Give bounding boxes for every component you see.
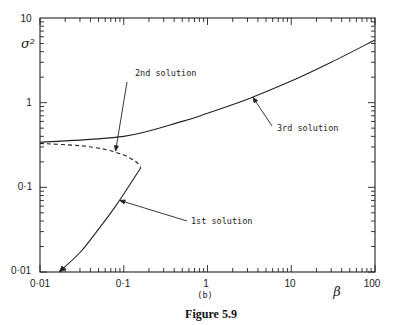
- arrowhead-icon: [114, 146, 118, 151]
- arrowhead-icon: [120, 200, 125, 204]
- axis-ticks: [40, 18, 375, 272]
- plot-frame: [40, 18, 375, 272]
- data-series: [40, 40, 375, 272]
- arrowhead-icon: [253, 98, 257, 103]
- annotation-arrows: [59, 82, 272, 272]
- y-axis-title: σ²: [21, 36, 35, 51]
- y-tick-label-0.01: 0·01: [11, 265, 31, 276]
- x-tick-label-0.01: 0·01: [30, 278, 50, 289]
- annotation-leader: [116, 82, 127, 151]
- x-axis-title: β: [332, 284, 341, 299]
- y-tick-label-1: 1: [26, 97, 32, 108]
- x-tick-label-10: 10: [284, 278, 296, 289]
- figure-caption: Figure 5.9: [185, 307, 237, 321]
- chart: 10 1 0·1 0·01 0·01 0·1 1 10 100 σ² β 2nd…: [0, 0, 393, 325]
- annotation-2nd-solution: 2nd solution: [135, 68, 196, 78]
- series-1st-solution: [59, 168, 141, 272]
- panel-label: (b): [197, 290, 212, 300]
- x-tick-label-1: 1: [203, 278, 209, 289]
- annotation-3rd-solution: 3rd solution: [277, 123, 338, 133]
- series-2nd-solution: [40, 143, 141, 167]
- x-tick-label-0.1: 0·1: [116, 278, 131, 289]
- annotation-1st-solution: 1st solution: [191, 216, 252, 226]
- y-tick-label-10: 10: [20, 13, 32, 24]
- x-tick-label-100: 100: [364, 278, 381, 289]
- annotation-leader: [120, 200, 187, 221]
- y-tick-label-0.1: 0·1: [18, 181, 33, 192]
